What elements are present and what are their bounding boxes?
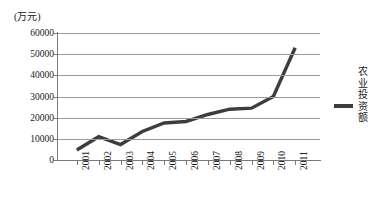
x-axis-tick-label: 2006	[190, 151, 200, 170]
y-axis-tick-mark	[53, 54, 58, 55]
x-axis-tick-mark	[295, 161, 296, 165]
gridline	[58, 139, 320, 140]
x-axis-tick-label: 2002	[103, 151, 113, 170]
x-axis-tick-mark	[273, 161, 274, 165]
gridline	[58, 75, 320, 76]
x-axis-tick-label: 2010	[277, 151, 287, 170]
x-axis-tick-mark	[186, 161, 187, 165]
gridline	[58, 33, 320, 34]
y-axis-tick-label: 50000	[10, 49, 54, 59]
x-axis-tick-mark	[164, 161, 165, 165]
gridline	[58, 97, 320, 98]
line-chart: (万元) 6000050000400003000020000100000 200…	[0, 0, 383, 219]
x-axis-tick-mark	[208, 161, 209, 165]
y-axis-tick-label: 30000	[10, 92, 54, 102]
y-axis-tick-label: 60000	[10, 28, 54, 38]
x-axis-tick-label: 2004	[146, 151, 156, 170]
gridline	[58, 54, 320, 55]
x-axis-tick-label: 2001	[81, 151, 91, 170]
y-axis-tick-label: 0	[10, 155, 54, 165]
gridline	[58, 118, 320, 119]
x-axis-tick-mark	[99, 161, 100, 165]
y-axis-tick-label: 40000	[10, 70, 54, 80]
x-axis-tick-mark	[77, 161, 78, 165]
y-axis-tick-mark	[53, 160, 58, 161]
y-axis-tick-mark	[53, 97, 58, 98]
plot-area	[58, 33, 320, 160]
legend-label-agricultural-investment: 农业投资额	[356, 66, 369, 124]
x-axis-tick-label: 2003	[125, 151, 135, 170]
x-axis-tick-mark	[142, 161, 143, 165]
x-axis-tick-label: 2007	[212, 151, 222, 170]
y-axis-unit-label: (万元)	[14, 8, 41, 23]
x-axis-tick-label: 2011	[299, 151, 309, 170]
x-axis-tick-label: 2009	[256, 151, 266, 170]
y-axis-tick-mark	[53, 139, 58, 140]
y-axis-tick-label: 20000	[10, 113, 54, 123]
y-axis-tick-mark	[53, 118, 58, 119]
x-axis-tick-label: 2008	[234, 151, 244, 170]
legend: 农业投资额	[334, 66, 380, 124]
y-axis-tick-mark	[53, 75, 58, 76]
x-axis-tick-mark	[121, 161, 122, 165]
x-axis-tick-mark	[230, 161, 231, 165]
legend-swatch-agricultural-investment	[334, 104, 353, 108]
x-axis-tick-mark	[252, 161, 253, 165]
x-axis-tick-label: 2005	[168, 151, 178, 170]
y-axis-tick-mark	[53, 33, 58, 34]
y-axis-tick-label: 10000	[10, 134, 54, 144]
